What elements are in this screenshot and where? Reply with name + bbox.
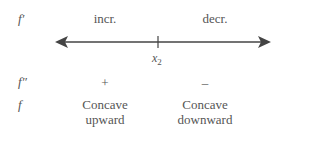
f-left-concavity: Concave upward [60, 97, 150, 127]
f-double-prime-left-sign: + [60, 75, 150, 90]
f-double-prime-right-sign: – [160, 75, 250, 90]
f-right-concavity: Concave downward [160, 97, 250, 127]
x2-label: x2 [152, 51, 162, 67]
